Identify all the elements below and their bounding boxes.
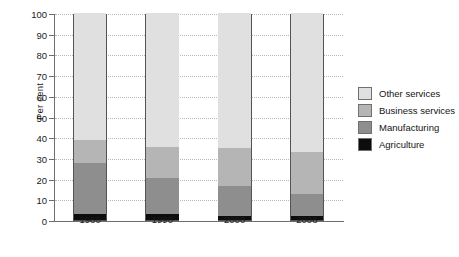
y-axis-tick-label: 80 bbox=[36, 50, 47, 61]
y-axis-tick bbox=[49, 14, 54, 15]
y-axis-tick bbox=[49, 159, 54, 160]
bar-segment-manufacturing[interactable] bbox=[218, 186, 250, 216]
bar-segment-manufacturing[interactable] bbox=[291, 194, 323, 216]
legend-item-other-services[interactable]: Other services bbox=[358, 85, 458, 102]
y-axis-tick-label: 20 bbox=[36, 174, 47, 185]
bar-segment-other-services[interactable] bbox=[146, 13, 178, 147]
y-axis-tick-label: 70 bbox=[36, 71, 47, 82]
y-axis-tick bbox=[49, 35, 54, 36]
legend-label: Business services bbox=[379, 105, 455, 116]
legend-item-agriculture[interactable]: Agriculture bbox=[358, 136, 458, 153]
chart-container: Per cent 0102030405060708090100 19801990… bbox=[0, 0, 459, 257]
bar-segment-other-services[interactable] bbox=[218, 13, 250, 148]
y-axis-tick bbox=[49, 200, 54, 201]
y-axis-tick bbox=[49, 97, 54, 98]
y-axis-tick-label: 0 bbox=[42, 216, 47, 227]
legend-swatch-icon bbox=[358, 87, 372, 100]
y-axis-tick bbox=[49, 76, 54, 77]
x-axis-label-2000: 2000 bbox=[205, 214, 265, 225]
y-axis-tick-label: 30 bbox=[36, 153, 47, 164]
y-axis-tick-label: 90 bbox=[36, 29, 47, 40]
bar-1980[interactable] bbox=[73, 14, 107, 221]
bar-segment-business-services[interactable] bbox=[74, 140, 106, 163]
x-axis-label-1980: 1980 bbox=[60, 214, 120, 225]
bar-2000[interactable] bbox=[218, 14, 252, 221]
y-axis-tick bbox=[49, 138, 54, 139]
legend-label: Manufacturing bbox=[379, 122, 439, 133]
bar-segment-manufacturing[interactable] bbox=[74, 163, 106, 214]
y-axis-tick-label: 50 bbox=[36, 112, 47, 123]
x-axis-label-2008: 2008 bbox=[277, 214, 337, 225]
bar-segment-business-services[interactable] bbox=[146, 147, 178, 178]
x-axis-label-1990: 1990 bbox=[132, 214, 192, 225]
bar-segment-other-services[interactable] bbox=[291, 13, 323, 152]
bar-segment-other-services[interactable] bbox=[74, 13, 106, 140]
y-axis-tick-label: 60 bbox=[36, 91, 47, 102]
legend-swatch-icon bbox=[358, 104, 372, 117]
legend-item-manufacturing[interactable]: Manufacturing bbox=[358, 119, 458, 136]
chart-legend: Other servicesBusiness servicesManufactu… bbox=[358, 85, 458, 153]
legend-swatch-icon bbox=[358, 138, 372, 151]
bar-2008[interactable] bbox=[290, 14, 324, 221]
plot-area: 0102030405060708090100 bbox=[54, 14, 343, 221]
legend-item-business-services[interactable]: Business services bbox=[358, 102, 458, 119]
y-axis-tick bbox=[49, 118, 54, 119]
legend-label: Other services bbox=[379, 88, 440, 99]
y-axis-tick-label: 10 bbox=[36, 195, 47, 206]
legend-swatch-icon bbox=[358, 121, 372, 134]
y-axis-tick bbox=[49, 55, 54, 56]
y-axis-tick-label: 100 bbox=[31, 9, 47, 20]
bar-segment-business-services[interactable] bbox=[218, 148, 250, 186]
bar-segment-business-services[interactable] bbox=[291, 152, 323, 194]
y-axis-tick bbox=[49, 180, 54, 181]
legend-label: Agriculture bbox=[379, 139, 424, 150]
y-axis-tick-label: 40 bbox=[36, 133, 47, 144]
bar-1990[interactable] bbox=[145, 14, 179, 221]
bar-segment-manufacturing[interactable] bbox=[146, 178, 178, 214]
y-axis-tick bbox=[49, 221, 54, 222]
